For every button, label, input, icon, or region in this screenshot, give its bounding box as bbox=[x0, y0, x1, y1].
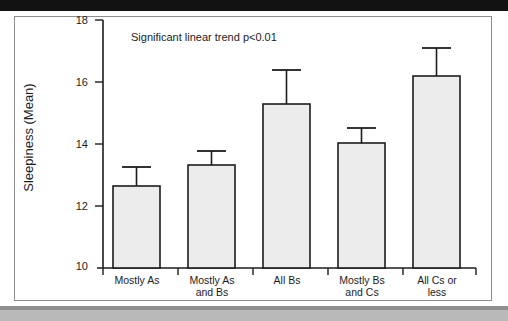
bar-mostly-as bbox=[113, 186, 160, 268]
bar-mostly-bs-and-cs bbox=[338, 143, 385, 268]
plot-canvas bbox=[0, 0, 508, 321]
scan-bottom-band bbox=[0, 310, 508, 321]
bar-chart: Sleepiness (Mean) Significant linear tre… bbox=[0, 0, 508, 321]
bar-all-bs bbox=[263, 104, 310, 268]
bar-mostly-as-and-bs bbox=[188, 165, 235, 268]
bar-all-cs-or-less bbox=[413, 76, 460, 268]
bar-series bbox=[113, 48, 460, 268]
